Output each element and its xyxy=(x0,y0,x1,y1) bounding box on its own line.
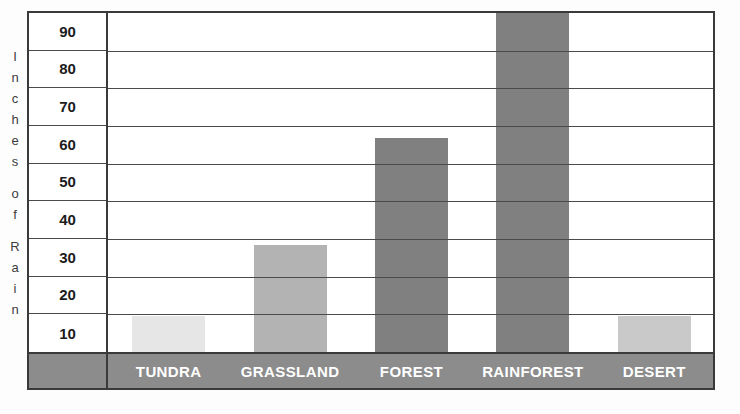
y-axis-title-letter: c xyxy=(12,88,19,109)
bars-layer xyxy=(108,13,713,352)
category-axis-band: TUNDRAGRASSLANDFORESTRAINFORESTDESERT xyxy=(29,352,713,388)
y-axis-title-letter: s xyxy=(12,151,19,172)
y-axis-title-letter: I xyxy=(13,46,17,67)
y-axis-tick-label: 40 xyxy=(29,201,106,239)
plot-area xyxy=(108,13,713,352)
bar-desert xyxy=(618,316,691,352)
y-axis-tick-label: 10 xyxy=(29,314,106,352)
y-axis-tick-label: 20 xyxy=(29,277,106,315)
category-band-corner xyxy=(29,354,108,388)
y-axis-title-letter: R xyxy=(10,236,19,257)
y-axis-tick-label: 70 xyxy=(29,88,106,126)
category-label-grassland: GRASSLAND xyxy=(229,354,350,388)
y-axis-tick-label: 30 xyxy=(29,239,106,277)
bar-tundra xyxy=(132,316,205,352)
category-label-rainforest: RAINFOREST xyxy=(472,354,593,388)
y-axis-title-letter: f xyxy=(13,204,17,225)
y-axis-tick-label: 60 xyxy=(29,126,106,164)
y-axis-title-letter: a xyxy=(11,257,18,278)
bar-rainforest xyxy=(496,13,569,352)
category-label-desert: DESERT xyxy=(594,354,715,388)
y-axis-tick-label: 90 xyxy=(29,13,106,51)
y-axis-tick-label: 80 xyxy=(29,51,106,89)
y-axis-title-letter: e xyxy=(11,130,18,151)
y-axis-title-letter: n xyxy=(11,67,18,88)
category-label-tundra: TUNDRA xyxy=(108,354,229,388)
category-label-forest: FOREST xyxy=(351,354,472,388)
y-axis-title-letter: i xyxy=(14,278,17,299)
bar-grassland xyxy=(254,245,327,352)
rainfall-bar-chart: InchesofRain 908070605040302010 TUNDRAGR… xyxy=(0,0,740,414)
y-axis-title-letter: n xyxy=(11,299,18,320)
y-axis-title-letter: h xyxy=(11,109,18,130)
y-axis-title: InchesofRain xyxy=(4,18,26,348)
y-axis-title-letter: o xyxy=(11,183,18,204)
y-axis-tick-column: 908070605040302010 xyxy=(29,13,108,352)
chart-frame: 908070605040302010 TUNDRAGRASSLANDFOREST… xyxy=(27,11,715,390)
bar-forest xyxy=(375,138,448,352)
y-axis-tick-label: 50 xyxy=(29,164,106,202)
